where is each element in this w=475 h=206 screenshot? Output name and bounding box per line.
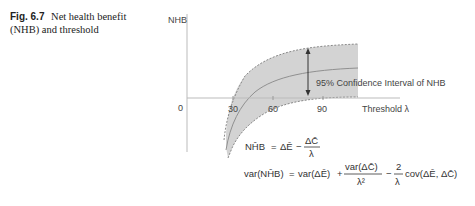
y-axis-label: NHB [168, 15, 187, 25]
var-formula-frac1-num: var(ΔC̄) [345, 161, 378, 172]
var-formula-frac2-den: λ [395, 176, 400, 187]
origin-label: 0 [178, 103, 183, 113]
nhb-formula-eq: = [271, 141, 277, 152]
var-formula-term1: var(ΔĒ) [298, 168, 330, 179]
var-formula-lhs: var(NĤB) [244, 168, 284, 179]
x-tick-label-60: 60 [268, 104, 278, 114]
var-formula-minus: − [386, 168, 392, 179]
var-formula-frac1-den: λ² [357, 176, 365, 187]
x-tick-label-90: 90 [317, 104, 327, 114]
nhb-formula: NĤB = ΔĒ − ΔC̄ λ [245, 135, 320, 159]
var-formula-plus: + [337, 168, 343, 179]
var-formula-frac2-num: 2 [396, 161, 401, 172]
nhb-formula-term1: ΔĒ [280, 141, 293, 152]
x-tick-label-30: 30 [228, 104, 238, 114]
nhb-chart: NHB 0 30 60 90 Threshold λ 95% Confidenc… [0, 0, 475, 206]
var-formula-eq: = [289, 168, 295, 179]
ci-annotation: 95% Confidence Interval of NHB [316, 78, 446, 88]
nhb-formula-den: λ [309, 148, 314, 159]
nhb-formula-minus: − [296, 141, 302, 152]
x-axis-label: Threshold λ [362, 104, 410, 114]
nhb-formula-lhs: NĤB [245, 141, 265, 152]
var-formula: var(NĤB) = var(ΔĒ) + var(ΔC̄) λ² − 2 λ c… [244, 161, 457, 187]
nhb-formula-num: ΔC̄ [305, 135, 318, 146]
var-formula-term3: cov(ΔĒ, ΔC̄) [405, 168, 457, 179]
